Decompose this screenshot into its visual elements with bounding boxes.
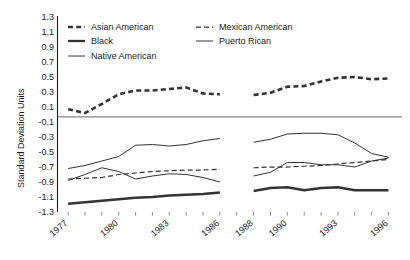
chart-container: Standard Deviation Units 1.31.10.90.70.5… bbox=[0, 0, 410, 260]
x-tick-label: 1980 bbox=[98, 218, 120, 239]
x-tick-label: 1993 bbox=[317, 218, 339, 239]
x-axis-tick-labels: 19771980198319861988199019931996 bbox=[48, 218, 390, 239]
y-tick-label: -0.1 bbox=[38, 117, 54, 127]
y-tick-label: -0.7 bbox=[38, 162, 54, 172]
y-tick-label: -0.3 bbox=[38, 132, 54, 142]
x-axis-tickmarks bbox=[68, 212, 388, 216]
y-tick-label: 0.9 bbox=[41, 42, 54, 52]
legend-label-black: Black bbox=[91, 36, 114, 46]
series-line-puerto-rican bbox=[254, 133, 389, 157]
x-tick-label: 1988 bbox=[233, 218, 255, 239]
x-tick-label: 1996 bbox=[368, 218, 390, 239]
y-tick-label: -0.9 bbox=[38, 177, 54, 187]
data-series-group bbox=[68, 77, 388, 204]
series-line-mexican-american bbox=[254, 160, 389, 168]
series-line-asian-american bbox=[254, 77, 389, 95]
series-line-black bbox=[254, 187, 389, 191]
x-tick-label: 1990 bbox=[267, 218, 289, 239]
y-tick-label: -0.5 bbox=[38, 147, 54, 157]
y-tick-label: 0.1 bbox=[41, 102, 54, 112]
legend-label-mexican-american: Mexican American bbox=[219, 22, 293, 32]
x-tick-label: 1986 bbox=[199, 218, 221, 239]
line-chart: Standard Deviation Units 1.31.10.90.70.5… bbox=[0, 0, 410, 260]
series-line-asian-american bbox=[68, 88, 220, 114]
series-line-black bbox=[68, 193, 220, 204]
chart-legend: Asian AmericanMexican AmericanBlackPuert… bbox=[68, 22, 293, 61]
y-axis-tick-labels: 1.31.10.90.70.50.30.1-0.1-0.3-0.5-0.7-0.… bbox=[38, 12, 54, 217]
legend-label-puerto-rican: Puerto Rican bbox=[219, 36, 271, 46]
y-tick-label: 1.1 bbox=[41, 27, 54, 37]
y-tick-label: 0.3 bbox=[41, 87, 54, 97]
legend-label-native-american: Native American bbox=[91, 51, 157, 61]
series-line-puerto-rican bbox=[68, 139, 220, 169]
x-tick-label: 1983 bbox=[149, 218, 171, 239]
y-axis-title: Standard Deviation Units bbox=[16, 88, 26, 188]
legend-label-asian-american: Asian American bbox=[91, 22, 154, 32]
y-tick-label: 0.5 bbox=[41, 72, 54, 82]
x-tick-label: 1977 bbox=[48, 218, 70, 239]
y-tick-label: 0.7 bbox=[41, 57, 54, 67]
y-tick-label: 1.3 bbox=[41, 12, 54, 22]
y-tick-label: -1.1 bbox=[38, 192, 54, 202]
y-tick-label: -1.3 bbox=[38, 207, 54, 217]
